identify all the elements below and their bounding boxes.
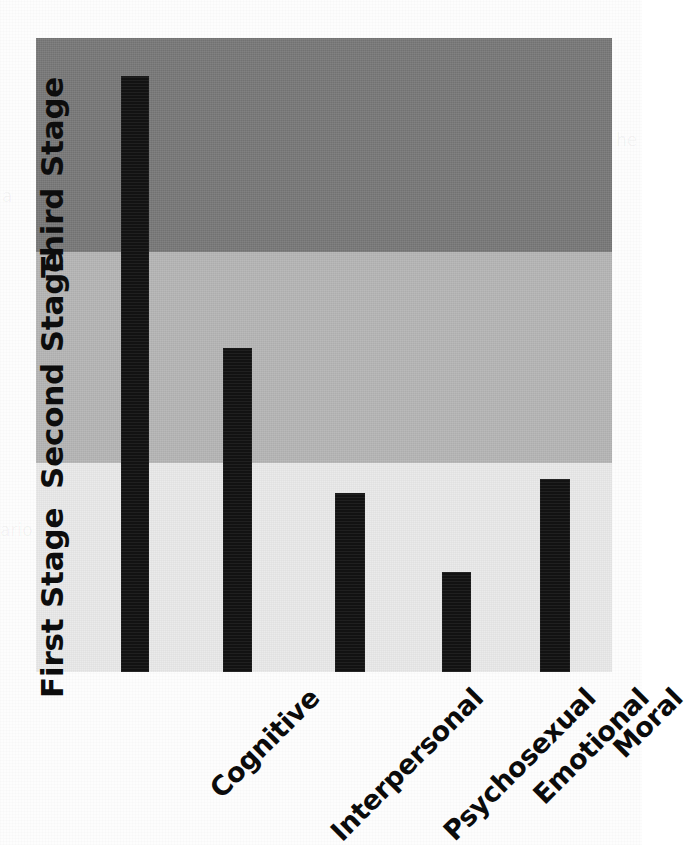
tick-label-cognitive: Cognitive [203,682,325,804]
bar-moral [540,479,570,672]
tick-label-emotional: Emotional [527,682,655,810]
scan-ghost-text: he [616,130,637,150]
bar-interpersonal [223,348,252,672]
tick-label-moral: Moral [607,682,688,764]
plot-area: Third StageSecond StageFirst Stage [36,38,612,672]
bar-emotional [442,572,471,672]
tick-label-interpersonal: Interpersonal [324,682,489,845]
scan-ghost-text: a [2,186,12,206]
scan-ghost-text: ario [0,520,33,540]
bar-psychosexual [335,493,365,672]
tick-label-psychosexual: Psychosexual [437,682,602,845]
bar-cognitive [121,76,149,672]
